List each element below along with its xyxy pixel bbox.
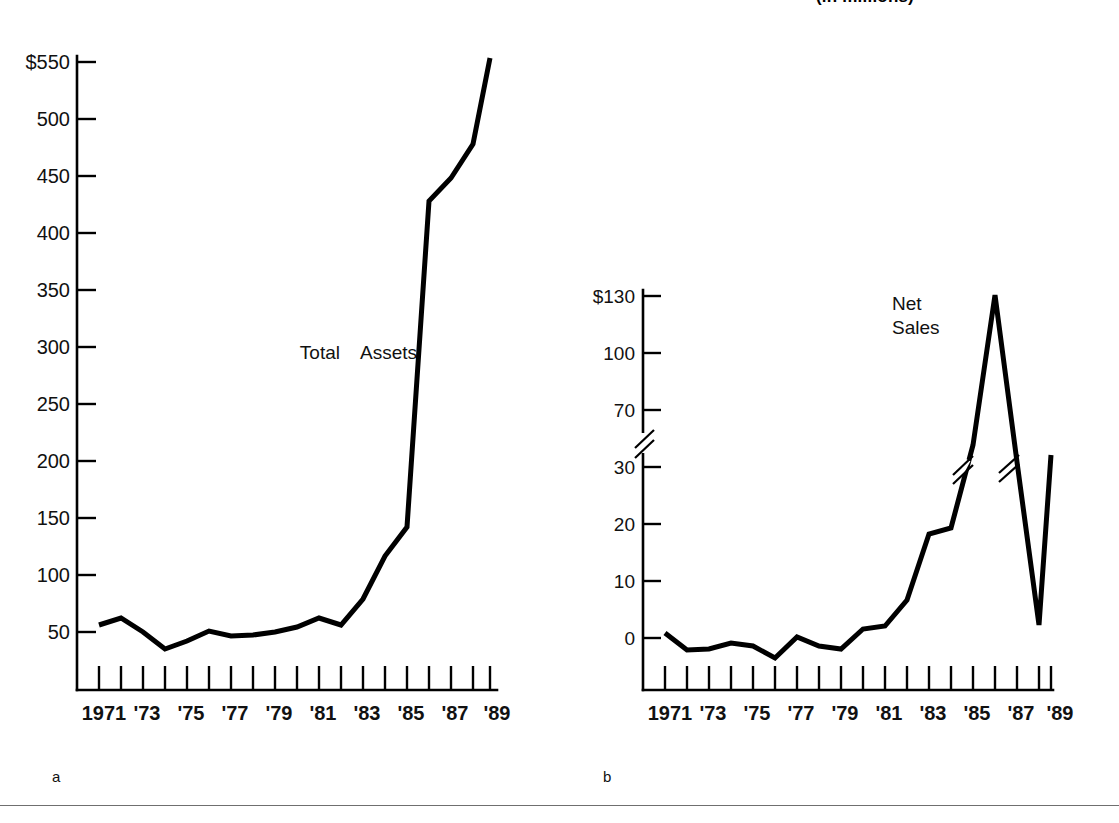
figure-title-sliver: (in millions) xyxy=(700,0,1030,7)
panel-label-b: b xyxy=(603,768,611,785)
x-tick-label: '79 xyxy=(265,702,292,720)
x-tick-label: '85 xyxy=(397,702,424,720)
chart-b-series-annotation: Net Sales xyxy=(892,293,940,338)
y-tick-label: 150 xyxy=(37,507,70,529)
x-tick-label: '87 xyxy=(1007,702,1034,720)
x-tick-label: 1971 xyxy=(648,702,693,720)
chart-a-series-label-part1: Total xyxy=(300,342,340,363)
y-tick-label: 500 xyxy=(37,108,70,130)
y-tick-label: 100 xyxy=(603,343,635,364)
y-tick-label: 300 xyxy=(37,336,70,358)
x-tick-label: '75 xyxy=(743,702,770,720)
figure-page: (in millions) xyxy=(0,0,1119,823)
y-tick-label: 70 xyxy=(614,400,635,421)
y-tick-label: 20 xyxy=(614,514,635,535)
x-tick-label: '83 xyxy=(353,702,380,720)
chart-a-y-ticks xyxy=(77,62,96,632)
x-tick-label: '87 xyxy=(441,702,468,720)
y-tick-label: 0 xyxy=(624,628,635,649)
chart-b-y-tick-labels: $130 100 70 30 20 10 0 xyxy=(593,286,635,649)
y-tick-label: $550 xyxy=(26,51,71,73)
x-tick-label: '77 xyxy=(787,702,814,720)
y-tick-label: 100 xyxy=(37,564,70,586)
x-tick-label: '83 xyxy=(919,702,946,720)
footer-rule xyxy=(0,805,1119,806)
y-tick-label: 200 xyxy=(37,450,70,472)
x-tick-label: '81 xyxy=(875,702,902,720)
chart-b-axis-break xyxy=(635,430,654,458)
chart-panel-a: $550 500 450 400 350 300 250 200 150 100… xyxy=(0,20,560,780)
chart-b-series-label-line2: Sales xyxy=(892,317,940,338)
chart-a-svg: $550 500 450 400 350 300 250 200 150 100… xyxy=(0,20,560,720)
chart-a-data-line xyxy=(99,58,490,649)
panel-label-a: a xyxy=(52,768,60,785)
chart-a-x-ticks xyxy=(99,666,490,690)
y-tick-label: 400 xyxy=(37,222,70,244)
chart-b-x-tick-labels: 1971 '73 '75 '77 '79 '81 '83 '85 '87 '89 xyxy=(648,702,1074,720)
y-tick-label: 30 xyxy=(614,457,635,478)
y-tick-label: 350 xyxy=(37,279,70,301)
x-tick-label: '79 xyxy=(831,702,858,720)
chart-b-series-label-line1: Net xyxy=(892,293,922,314)
x-tick-label: '85 xyxy=(963,702,990,720)
chart-b-svg: $130 100 70 30 20 10 0 xyxy=(555,270,1119,720)
x-tick-label: '81 xyxy=(309,702,336,720)
y-tick-label: 450 xyxy=(37,165,70,187)
chart-a-x-tick-labels: 1971 '73 '75 '77 '79 '81 '83 '85 '87 '89 xyxy=(82,702,511,720)
y-tick-label: 10 xyxy=(614,571,635,592)
y-tick-label: 250 xyxy=(37,393,70,415)
x-tick-label: '73 xyxy=(699,702,726,720)
chart-a-series-label-part2: Assets xyxy=(360,342,417,363)
y-tick-label: $130 xyxy=(593,286,635,307)
y-tick-label: 50 xyxy=(48,621,70,643)
x-tick-label: '89 xyxy=(1046,702,1073,720)
x-tick-label: '73 xyxy=(133,702,160,720)
x-tick-label: 1971 xyxy=(82,702,127,720)
x-tick-label: '89 xyxy=(483,702,510,720)
x-tick-label: '75 xyxy=(177,702,204,720)
chart-a-y-tick-labels: $550 500 450 400 350 300 250 200 150 100… xyxy=(26,51,71,643)
chart-b-y-ticks xyxy=(643,296,661,638)
chart-panel-b: $130 100 70 30 20 10 0 xyxy=(555,270,1119,780)
chart-b-data-line xyxy=(665,295,1051,658)
x-tick-label: '77 xyxy=(221,702,248,720)
chart-b-x-ticks xyxy=(665,666,1051,690)
